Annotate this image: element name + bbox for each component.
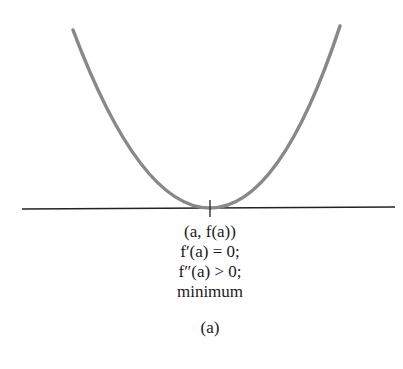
first-derivative-condition: f′(a) = 0; (110, 242, 310, 262)
parabola-curve (73, 26, 340, 208)
classification-label: minimum (110, 282, 310, 302)
function-graph (0, 0, 403, 369)
point-label: (a, f(a)) (110, 222, 310, 242)
second-derivative-condition: f″(a) > 0; (110, 262, 310, 282)
figure-caption: (a) (110, 318, 310, 338)
point-annotation: (a, f(a)) f′(a) = 0; f″(a) > 0; minimum (110, 222, 310, 302)
